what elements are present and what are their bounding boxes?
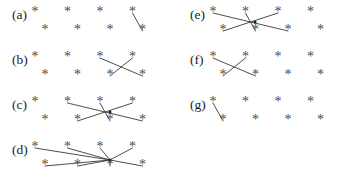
point-c-r2c4: * <box>139 112 146 127</box>
point-a-r1c3: * <box>97 4 104 19</box>
point-e-r2c3: * <box>285 22 292 37</box>
panel-label-a: (a) <box>12 7 27 22</box>
point-e-r2c4: * <box>317 22 324 37</box>
panel-e: (e)******** <box>190 4 324 37</box>
point-e-r2c1: * <box>220 22 227 37</box>
panel-g: (g)******** <box>190 94 324 127</box>
point-c-r1c1: * <box>32 94 39 109</box>
panel-label-c: (c) <box>12 97 27 112</box>
point-b-r1c3: * <box>97 49 104 64</box>
point-a-r2c1: * <box>42 22 49 37</box>
point-c-r1c2: * <box>64 94 71 109</box>
panel-f: (f)******** <box>190 49 324 82</box>
point-c-r2c2: * <box>74 112 81 127</box>
point-a-r1c4: * <box>129 4 136 19</box>
point-configuration-figure: (a)********(b)********(c)********(d)****… <box>0 0 346 188</box>
panel-a: (a)******** <box>12 4 146 37</box>
point-a-r1c2: * <box>64 4 71 19</box>
panel-d: (d)******** <box>12 139 146 172</box>
point-f-r2c2: * <box>252 67 259 82</box>
panel-label-f: (f) <box>190 52 204 67</box>
figure-container: (a)********(b)********(c)********(d)****… <box>0 0 346 188</box>
point-c-r1c4: * <box>129 94 136 109</box>
point-g-r2c2: * <box>252 112 259 127</box>
point-f-r2c4: * <box>317 67 324 82</box>
point-a-r2c2: * <box>74 22 81 37</box>
point-f-r1c1: * <box>210 49 217 64</box>
panel-label-g: (g) <box>190 97 206 112</box>
panel-label-e: (e) <box>190 7 205 22</box>
panel-c: (c)******** <box>12 94 146 127</box>
point-g-r2c3: * <box>285 112 292 127</box>
point-g-r1c1: * <box>210 94 217 109</box>
panel-b: (b)******** <box>12 49 146 82</box>
point-c-r1c3: * <box>97 94 104 109</box>
point-d-r1c3: * <box>97 139 104 154</box>
point-d-r2c1: * <box>42 157 49 172</box>
point-d-r2c3: * <box>107 157 114 172</box>
point-d-r2c2: * <box>74 157 81 172</box>
point-c-r2c3: * <box>107 112 114 127</box>
point-f-r2c3: * <box>285 67 292 82</box>
point-b-r1c1: * <box>32 49 39 64</box>
point-e-r1c3: * <box>275 4 282 19</box>
edge-d-ray-c4-bottom <box>110 160 143 166</box>
point-b-r1c4: * <box>129 49 136 64</box>
point-f-r1c3: * <box>275 49 282 64</box>
point-g-r1c2: * <box>242 94 249 109</box>
point-g-r2c1: * <box>220 112 227 127</box>
point-e-r1c1: * <box>210 4 217 19</box>
point-f-r1c2: * <box>242 49 249 64</box>
point-f-r1c4: * <box>307 49 314 64</box>
point-a-r2c4: * <box>139 22 146 37</box>
point-b-r1c2: * <box>64 49 71 64</box>
point-d-r2c4: * <box>139 157 146 172</box>
point-b-r2c2: * <box>74 67 81 82</box>
point-d-r1c2: * <box>64 139 71 154</box>
panel-label-b: (b) <box>12 52 28 67</box>
point-g-r1c4: * <box>307 94 314 109</box>
panel-label-d: (d) <box>12 142 28 157</box>
point-a-r1c1: * <box>32 4 39 19</box>
point-c-r2c1: * <box>42 112 49 127</box>
point-a-r2c3: * <box>107 22 114 37</box>
point-d-r1c1: * <box>32 139 39 154</box>
point-b-r2c3: * <box>107 67 114 82</box>
point-g-r2c4: * <box>317 112 324 127</box>
point-b-r2c1: * <box>42 67 49 82</box>
point-f-r2c1: * <box>220 67 227 82</box>
point-e-r2c2: * <box>252 22 259 37</box>
point-e-r1c2: * <box>242 4 249 19</box>
point-g-r1c3: * <box>275 94 282 109</box>
point-d-r1c4: * <box>129 139 136 154</box>
point-b-r2c4: * <box>139 67 146 82</box>
point-e-r1c4: * <box>307 4 314 19</box>
